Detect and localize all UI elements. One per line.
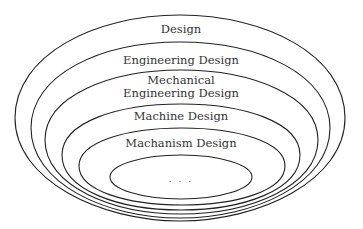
label-mechanical-line1: Mechanical: [147, 73, 215, 87]
nested-design-diagram: Design Engineering Design Mechanical Eng…: [0, 0, 363, 229]
label-machine-design: Machine Design: [134, 109, 229, 123]
label-ellipsis: . . .: [169, 174, 193, 184]
label-machanism-design: Machanism Design: [125, 136, 237, 150]
ring-engineering-design: [31, 42, 330, 218]
label-design: Design: [161, 22, 202, 36]
label-mechanical-line2: Engineering Design: [123, 86, 239, 100]
label-engineering-design: Engineering Design: [123, 53, 239, 67]
